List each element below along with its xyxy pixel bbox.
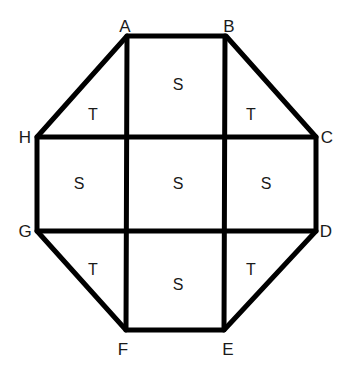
vertex-label-g: G [18,222,31,241]
square-region-label: S [173,276,184,293]
vertex-label-h: H [19,128,31,147]
region-labels: STTSSSTTS [74,76,272,293]
octagon-diagram: ABCDEFGH STTSSSTTS [0,0,348,371]
triangle-region-label: T [88,261,98,278]
square-region-label: S [261,175,272,192]
vertex-label-b: B [223,17,234,36]
grid-line-vertical-left [126,36,127,330]
vertex-label-e: E [222,340,233,359]
square-region-label: S [173,76,184,93]
vertex-label-c: C [321,128,333,147]
vertex-label-d: D [320,222,332,241]
square-region-label: S [74,175,85,192]
vertex-label-f: F [118,340,128,359]
triangle-region-label: T [88,106,98,123]
triangle-region-label: T [246,261,256,278]
grid-line-vertical-right [224,36,225,330]
vertex-label-a: A [119,17,131,36]
triangle-region-label: T [246,106,256,123]
square-region-label: S [173,175,184,192]
